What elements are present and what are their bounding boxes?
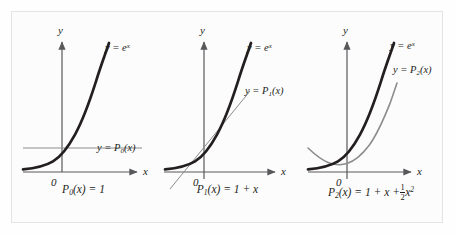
caption-p0: P0(x) = 1 xyxy=(11,183,156,197)
caption-p2: P2(x) = 1 + x +12x2 xyxy=(299,183,443,201)
caption-p2-tail-exponent: 2 xyxy=(410,185,414,194)
x-axis-label-p2: x xyxy=(416,165,422,177)
approximation-curve-p2 xyxy=(308,83,397,165)
x-axis-label-p1: x xyxy=(280,165,286,177)
y-axis-label-p0: y xyxy=(57,24,63,36)
exponential-curve-p2 xyxy=(308,43,394,169)
caption-p2-expression: (x) = 1 + x + xyxy=(339,186,400,198)
curve-label-p2: y = ex xyxy=(389,40,416,51)
caption-p2-symbol: P xyxy=(328,186,335,198)
y-axis-label-p2: y xyxy=(342,24,348,36)
curve-label-p0: y = ex xyxy=(104,42,131,53)
y-axis-label-p1: y xyxy=(199,24,205,36)
curve-label-p1: y = ex xyxy=(246,42,273,53)
panel-p0: y x 0 y = ex y = P0(x) P0(x) = 1 xyxy=(11,11,156,223)
caption-p1: P1(x) = 1 + x xyxy=(156,183,299,197)
panel-p2: y x 0 y = ex y = P2(x) P2(x) = 1 + x +12… xyxy=(299,11,443,223)
panel-p1: y x 0 y = ex y = P1(x) P1(x) = 1 + x xyxy=(156,11,299,223)
caption-p1-symbol: P xyxy=(197,183,204,195)
taylor-approximation-figure: y x 0 y = ex y = P0(x) P0(x) = 1 xyxy=(0,0,455,235)
approximation-label-p1: y = P1(x) xyxy=(244,85,284,98)
caption-p0-expression: (x) = 1 xyxy=(73,183,105,195)
caption-p1-expression: (x) = 1 + x xyxy=(208,183,259,195)
approximation-line-p1 xyxy=(170,91,250,189)
approximation-label-p0: y = P0(x) xyxy=(96,142,136,155)
approximation-label-p2: y = P2(x) xyxy=(392,64,432,77)
x-axis-label-p0: x xyxy=(142,165,148,177)
